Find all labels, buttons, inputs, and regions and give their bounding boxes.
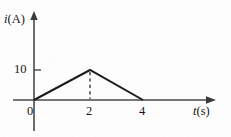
x-tick-label-0: 0 (27, 105, 33, 118)
x-tick-label-4: 4 (139, 105, 145, 118)
x-axis-arrow-icon (206, 96, 216, 103)
y-axis-label-unit: (A) (7, 12, 24, 26)
current-waveform-curve (34, 70, 143, 100)
x-axis-label-unit: (s) (196, 104, 209, 118)
y-axis-arrow-icon (30, 11, 37, 20)
y-tick-label-10: 10 (14, 63, 27, 76)
x-tick-label-2: 2 (86, 105, 92, 118)
x-axis-label: t(s) (193, 105, 210, 118)
y-axis-label: i(A) (4, 13, 25, 26)
current-waveform-figure: i(A) t(s) 10 0 2 4 (0, 0, 231, 137)
x-axis-group (13, 96, 216, 103)
